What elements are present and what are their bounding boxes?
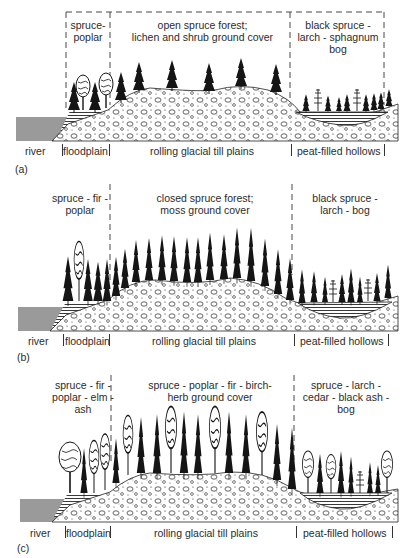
divider xyxy=(109,144,110,156)
panel-id: (c) xyxy=(17,542,29,554)
floodplain-label: floodplain xyxy=(66,527,111,539)
hollows-label: peat-filled hollows xyxy=(297,145,380,157)
hollows-label: peat-filled hollows xyxy=(303,527,386,539)
upland-vegetation-label: closed spruce forest; moss ground cover xyxy=(130,192,280,216)
panel-c: spruce - fir - poplar - elm - ash spruce… xyxy=(0,365,412,558)
bog-vegetation-label: black spruce - larch - sphagnum bog xyxy=(294,19,382,55)
divider xyxy=(291,144,292,156)
till-plains-label: rolling glacial till plains xyxy=(152,335,256,347)
panel-b: spruce - fir - poplar closed spruce fore… xyxy=(0,180,412,370)
floodplain-label: floodplain xyxy=(65,335,110,347)
bog-vegetation-label: spruce - larch - cedar - black ash - bog xyxy=(300,379,392,415)
panel-id: (a) xyxy=(15,163,28,175)
floodplain-vegetation-label: spruce- poplar xyxy=(67,19,109,43)
upland-vegetation-label: open spruce forest; lichen and shrub gro… xyxy=(120,19,285,43)
divider xyxy=(296,526,297,538)
till-plains-label: rolling glacial till plains xyxy=(154,527,258,539)
divider xyxy=(63,334,64,346)
hollows-label: peat-filled hollows xyxy=(300,335,383,347)
floodplain-vegetation-label: spruce - fir - poplar xyxy=(50,192,110,216)
river-label: river xyxy=(28,335,48,347)
panel-id: (b) xyxy=(17,351,30,363)
panel-a: spruce- poplar open spruce forest; liche… xyxy=(0,0,412,185)
divider xyxy=(109,334,110,346)
floodplain-vegetation-label: spruce - fir - poplar - elm - ash xyxy=(52,379,114,415)
divider xyxy=(392,526,393,538)
upland-vegetation-label: spruce - poplar - fir - birch- herb grou… xyxy=(135,379,285,403)
bog-vegetation-label: black spruce - larch - bog xyxy=(300,192,390,216)
river-label: river xyxy=(30,527,50,539)
river-label: river xyxy=(25,145,45,157)
divider xyxy=(384,144,385,156)
divider xyxy=(388,334,389,346)
till-plains-label: rolling glacial till plains xyxy=(150,145,254,157)
divider xyxy=(110,526,111,538)
divider xyxy=(294,334,295,346)
floodplain-label: floodplain xyxy=(63,145,108,157)
